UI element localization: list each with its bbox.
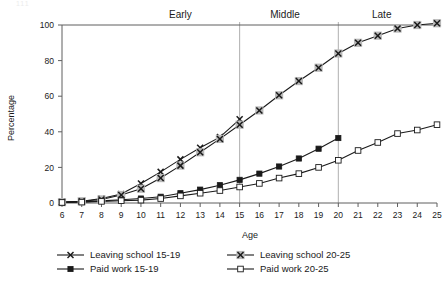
data-point-marker (296, 156, 301, 161)
y-axis-title: Percentage (6, 95, 16, 141)
y-tick-label-60: 60 (45, 91, 55, 101)
series-path (62, 125, 437, 203)
data-point-marker (99, 199, 105, 205)
legend-label-1: Leaving school 20-25 (260, 249, 350, 260)
x-tick-group: 678910111213141516171819202122232425 (60, 203, 442, 220)
data-point-marker (178, 193, 184, 199)
x-tick-label-12: 12 (176, 210, 186, 220)
data-point-marker (316, 165, 322, 171)
phase-label-group: EarlyMiddleLate (169, 9, 392, 20)
data-point-marker (277, 164, 282, 169)
data-point-marker (237, 184, 243, 190)
y-tick-label-80: 80 (45, 56, 55, 66)
x-tick-label-13: 13 (195, 210, 205, 220)
x-tick-label-8: 8 (99, 210, 104, 220)
y-tick-label-20: 20 (45, 163, 55, 173)
line-chart-canvas: EarlyMiddleLate 020406080100 67891011121… (0, 0, 445, 281)
x-tick-label-25: 25 (432, 210, 442, 220)
data-point-marker (395, 131, 401, 137)
markers-paid-work-20-25 (59, 122, 440, 205)
y-tick-label-0: 0 (49, 198, 54, 208)
data-point-marker (434, 122, 440, 128)
series-path (62, 23, 437, 202)
legend-label-0: Leaving school 15-19 (90, 249, 180, 260)
data-point-marker (59, 200, 65, 206)
data-point-marker (316, 146, 321, 151)
clipped-text-artifact: 111 (16, 0, 30, 7)
chart-legend: Leaving school 15-19Leaving school 20-25… (57, 249, 350, 274)
series-leaving-school-15-19 (62, 119, 240, 202)
x-tick-label-6: 6 (60, 210, 65, 220)
data-point-marker (197, 190, 203, 196)
series-paid-work-20-25 (62, 125, 437, 203)
phase-label-early: Early (169, 9, 192, 20)
data-point-marker (414, 127, 420, 133)
x-tick-label-18: 18 (294, 210, 304, 220)
legend-label-2: Paid work 15-19 (90, 263, 159, 274)
legend-marker (68, 266, 73, 271)
series-leaving-school-20-25 (62, 23, 437, 202)
data-point-marker (375, 140, 381, 146)
data-point-marker (158, 196, 164, 202)
x-tick-label-20: 20 (334, 210, 344, 220)
data-point-marker (79, 199, 85, 205)
markers-leaving-school-20-25 (58, 19, 441, 206)
x-tick-label-10: 10 (136, 210, 146, 220)
legend-item-0[interactable]: Leaving school 15-19 (57, 249, 180, 260)
data-point-marker (296, 171, 302, 177)
data-point-marker (257, 181, 263, 187)
markers-leaving-school-15-19 (59, 116, 243, 205)
legend-label-3: Paid work 20-25 (260, 263, 329, 274)
series-path (62, 119, 240, 202)
x-tick-label-11: 11 (156, 210, 165, 220)
legend-item-2[interactable]: Paid work 15-19 (57, 263, 159, 274)
x-tick-label-23: 23 (393, 210, 403, 220)
legend-item-1[interactable]: Leaving school 20-25 (227, 249, 350, 260)
data-point-marker (276, 175, 282, 181)
data-point-marker (138, 197, 144, 203)
legend-item-3[interactable]: Paid work 20-25 (227, 263, 329, 274)
x-tick-label-21: 21 (353, 210, 363, 220)
phase-label-late: Late (372, 9, 392, 20)
x-tick-label-7: 7 (79, 210, 84, 220)
legend-marker (238, 266, 244, 272)
x-tick-label-19: 19 (314, 210, 324, 220)
x-tick-label-17: 17 (274, 210, 284, 220)
data-point-marker (257, 171, 262, 176)
x-tick-label-15: 15 (235, 210, 245, 220)
x-tick-label-14: 14 (215, 210, 225, 220)
data-point-marker (237, 177, 242, 182)
data-point-marker (217, 188, 223, 194)
data-point-marker (355, 148, 361, 154)
chart-figure: EarlyMiddleLate 020406080100 67891011121… (0, 0, 445, 281)
y-tick-label-40: 40 (45, 127, 55, 137)
data-series-group (58, 19, 441, 206)
y-tick-group: 020406080100 (40, 20, 62, 208)
x-tick-label-24: 24 (413, 210, 423, 220)
data-point-marker (118, 198, 124, 204)
data-point-marker (217, 183, 222, 188)
phase-label-middle: Middle (270, 9, 300, 20)
x-axis-title: Age (242, 230, 258, 240)
x-tick-label-9: 9 (119, 210, 124, 220)
x-tick-label-22: 22 (373, 210, 383, 220)
data-point-marker (336, 135, 341, 140)
x-tick-label-16: 16 (255, 210, 265, 220)
y-tick-label-100: 100 (40, 20, 54, 30)
data-point-marker (336, 157, 342, 163)
